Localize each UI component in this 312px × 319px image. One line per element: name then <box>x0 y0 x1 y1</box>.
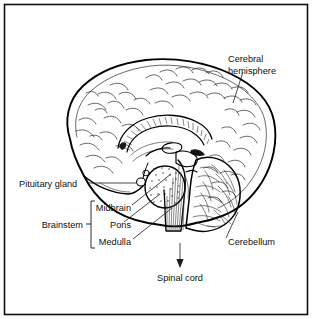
brain-anatomy-figure: Cerebral hemisphere Pituitary gland Brai… <box>0 0 312 319</box>
label-brainstem: Brainstem <box>42 220 84 230</box>
label-spinal-cord: Spinal cord <box>157 273 203 283</box>
label-pituitary-gland: Pituitary gland <box>19 179 77 189</box>
label-pons: Pons <box>110 220 131 230</box>
label-cerebellum: Cerebellum <box>228 237 275 247</box>
brain-diagram-canvas: Cerebral hemisphere Pituitary gland Brai… <box>0 0 312 319</box>
label-medulla: Medulla <box>99 237 132 247</box>
figure-background <box>0 0 312 319</box>
label-cerebral-hemisphere-line2: hemisphere <box>228 66 276 76</box>
label-cerebral-hemisphere-line1: Cerebral <box>228 54 263 64</box>
label-midbrain: Midbrain <box>96 203 131 213</box>
